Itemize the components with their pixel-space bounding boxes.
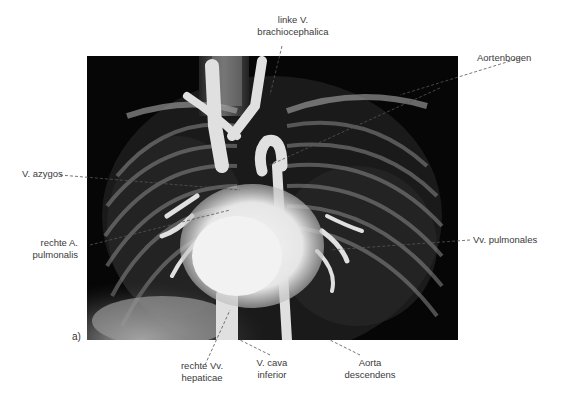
label-line: rechte Vv. bbox=[170, 360, 234, 372]
label-line: hepaticae bbox=[170, 372, 234, 384]
label-line: V. cava bbox=[247, 357, 297, 369]
label-line: pulmonalis bbox=[22, 249, 78, 261]
panel-label: a) bbox=[72, 331, 81, 342]
label-line: linke V. bbox=[248, 14, 338, 26]
label-aortenbogen: Aortenbogen bbox=[477, 52, 531, 64]
label-v-azygos: V. azygos bbox=[22, 168, 63, 180]
label-aorta-descendens: Aorta descendens bbox=[335, 357, 405, 381]
label-line: rechte A. bbox=[22, 237, 78, 249]
label-line: descendens bbox=[335, 369, 405, 381]
label-v-cava-inferior: V. cava inferior bbox=[247, 357, 297, 381]
label-linke-v-brachiocephalica: linke V. brachiocephalica bbox=[248, 14, 338, 38]
label-line: Aorta bbox=[335, 357, 405, 369]
label-vv-pulmonales: Vv. pulmonales bbox=[473, 234, 537, 246]
label-line: inferior bbox=[247, 369, 297, 381]
label-rechte-vv-hepaticae: rechte Vv. hepaticae bbox=[170, 360, 234, 384]
label-rechte-a-pulmonalis: rechte A. pulmonalis bbox=[22, 237, 78, 261]
label-line: brachiocephalica bbox=[248, 26, 338, 38]
